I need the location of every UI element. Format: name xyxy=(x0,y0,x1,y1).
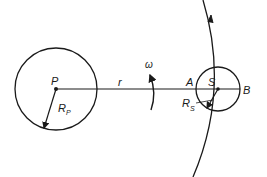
satellite-radius-subscript: S xyxy=(190,105,195,112)
satellite-radius-label: R xyxy=(182,97,190,109)
near-point-label: A xyxy=(185,76,193,88)
tidal-diagram: P R P r ω A S B R S xyxy=(0,0,267,177)
planet-label: P xyxy=(51,75,59,87)
angular-velocity-arrow-icon xyxy=(150,75,154,110)
angular-velocity-label: ω xyxy=(145,59,153,70)
planet-radius-label: R xyxy=(58,102,66,114)
distance-label: r xyxy=(118,76,123,88)
planet-radius-subscript: P xyxy=(66,109,71,116)
orbit-direction-arrow-icon xyxy=(208,15,213,23)
planet-radius-arrow xyxy=(44,89,56,128)
far-point-label: B xyxy=(243,84,250,96)
satellite-label: S xyxy=(208,76,216,88)
